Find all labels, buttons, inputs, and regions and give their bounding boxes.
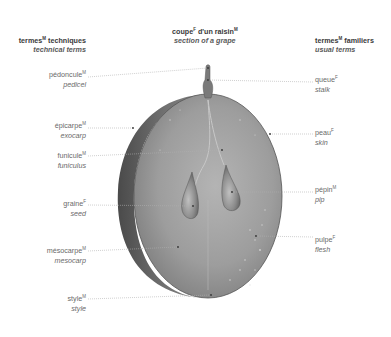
header-center-en: section of a grape	[172, 36, 238, 45]
header-technical-terms: termesM techniques technical terms	[19, 36, 86, 54]
gender-mark: M	[82, 151, 86, 156]
gender-mark: F	[333, 235, 336, 240]
gender-mark: M	[82, 121, 86, 126]
label-fr: pulpe	[315, 235, 333, 244]
label-en: skin	[315, 138, 334, 148]
label-pip: pépinM pip	[315, 185, 336, 204]
gender-mark: M	[82, 246, 86, 251]
label-fr: peau	[315, 128, 331, 137]
header-left-fr: termes	[19, 36, 43, 45]
label-fr: funicule	[57, 151, 82, 160]
label-skin: peauF skin	[315, 128, 334, 147]
label-en: style	[67, 304, 86, 314]
gender-mark: M	[82, 70, 86, 75]
label-flesh: pulpeF flesh	[315, 235, 335, 254]
label-en: pip	[315, 195, 336, 205]
header-left-en: technical terms	[19, 45, 86, 54]
gender-mark: M	[333, 185, 337, 190]
label-exocarp: épicarpeM exocarp	[55, 121, 86, 140]
label-en: flesh	[315, 245, 335, 255]
label-fr: pédoncule	[49, 70, 82, 79]
label-en: pedicel	[49, 80, 86, 90]
label-pedicel: pédonculeM pedicel	[49, 70, 86, 89]
label-seed: graineF seed	[63, 199, 86, 218]
label-en: exocarp	[55, 131, 86, 141]
header-usual-terms: termesM familiers usual terms	[315, 36, 374, 54]
label-fr: style	[67, 294, 82, 303]
label-en: stalk	[315, 85, 338, 95]
label-fr: pépin	[315, 185, 333, 194]
label-fr: mésocarpe	[47, 246, 83, 255]
gender-mark: F	[331, 128, 334, 133]
header-section-title: coupeF d'un raisinM section of a grape	[172, 27, 238, 45]
header-left-fr-rest: techniques	[46, 36, 86, 45]
header-right-fr: termes	[315, 36, 339, 45]
label-en: mesocarp	[47, 256, 86, 266]
grape-stem	[203, 65, 213, 98]
label-stalk: queueF stalk	[315, 75, 338, 94]
label-en: seed	[63, 209, 86, 219]
header-center-fr-rest: d'un raisin	[196, 27, 234, 36]
header-center-fr: coupe	[172, 27, 193, 36]
label-mesocarp: mésocarpeM mesocarp	[47, 246, 86, 265]
header-right-en: usual terms	[315, 45, 374, 54]
label-fr: épicarpe	[55, 121, 83, 130]
label-funiculus: funiculeM funiculus	[57, 151, 86, 170]
gender-mark: F	[335, 75, 338, 80]
label-fr: graine	[63, 199, 83, 208]
gender-mark: M	[82, 294, 86, 299]
label-fr: queue	[315, 75, 335, 84]
gender-mark: M	[234, 27, 238, 32]
label-en: funiculus	[57, 161, 86, 171]
header-right-fr-rest: familiers	[342, 36, 374, 45]
label-style: styleM style	[67, 294, 86, 313]
gender-mark: F	[83, 199, 86, 204]
